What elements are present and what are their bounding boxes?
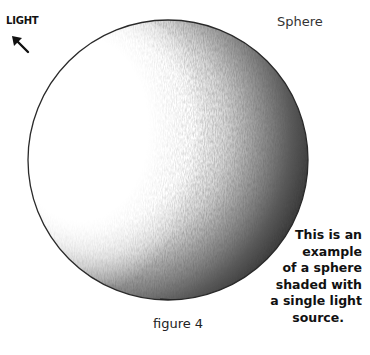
caption-line: a single light (242, 293, 362, 310)
light-label: LIGHT (6, 15, 39, 26)
caption-line: This is an (242, 227, 362, 244)
caption-line: of a sphere (242, 260, 362, 277)
caption-line: example (242, 244, 362, 261)
caption-text: This is an example of a sphere shaded wi… (242, 227, 362, 326)
caption-line: source. (242, 310, 362, 327)
illustration-canvas: LIGHT Sphere This is an example of a sph… (0, 0, 370, 355)
caption-line: shaded with (242, 277, 362, 294)
sphere-title: Sphere (277, 14, 323, 29)
arrow-up-left-icon (10, 34, 32, 56)
figure-label: figure 4 (153, 316, 203, 331)
